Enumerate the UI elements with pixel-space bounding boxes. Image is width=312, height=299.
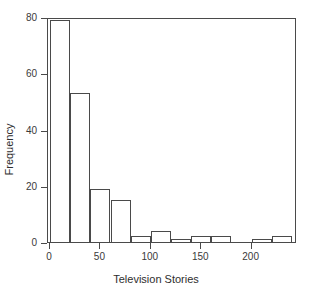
histogram-bar [211, 236, 231, 242]
histogram-bar [171, 239, 191, 242]
bar-series [48, 19, 295, 242]
y-axis-tick-label: 80 [26, 13, 37, 23]
x-axis-tick [251, 243, 252, 249]
histogram-bar [90, 189, 110, 242]
plot-area [47, 18, 296, 243]
x-axis-tick-label: 50 [94, 252, 105, 262]
x-axis-tick-label: 150 [192, 252, 209, 262]
histogram-bar [151, 231, 171, 242]
histogram-bar [111, 200, 131, 242]
y-axis-tick [41, 187, 47, 188]
x-axis-tick [99, 243, 100, 249]
x-axis-tick-label: 100 [141, 252, 158, 262]
x-axis-tick [150, 243, 151, 249]
y-axis-tick-label: 60 [26, 69, 37, 79]
y-axis-tick [41, 74, 47, 75]
y-axis-tick [41, 18, 47, 19]
histogram-bar [50, 20, 70, 242]
y-axis-tick [41, 243, 47, 244]
x-axis-tick [49, 243, 50, 249]
y-axis-tick-label: 40 [26, 126, 37, 136]
x-axis-tick-label: 200 [242, 252, 259, 262]
y-axis-tick-label: 0 [31, 238, 37, 248]
histogram-bar [252, 239, 272, 242]
y-axis-title: Frequency [2, 0, 16, 299]
y-axis-tick [41, 131, 47, 132]
x-axis-title: Television Stories [0, 273, 312, 285]
y-axis-tick-label: 20 [26, 182, 37, 192]
histogram-bar [191, 236, 211, 242]
x-axis-tick [200, 243, 201, 249]
histogram-figure: 020406080 050100150200 Television Storie… [0, 0, 312, 299]
histogram-bar [272, 236, 292, 242]
histogram-bar [70, 93, 90, 242]
histogram-bar [131, 236, 151, 242]
x-axis-tick-label: 0 [46, 252, 52, 262]
